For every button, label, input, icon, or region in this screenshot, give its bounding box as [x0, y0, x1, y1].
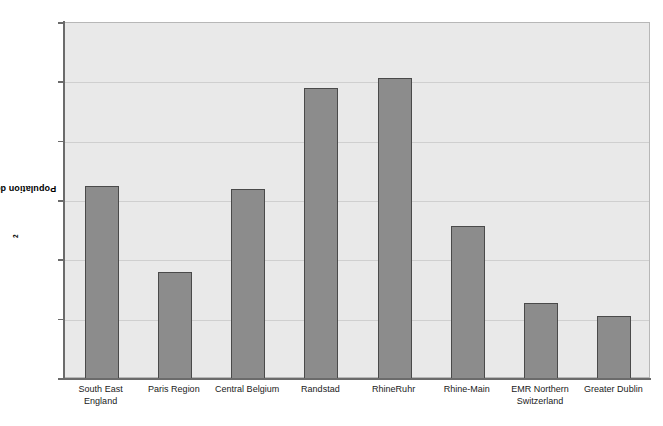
x-axis-line — [63, 378, 651, 380]
bar — [451, 226, 485, 379]
y-tick-mark — [58, 200, 63, 202]
y-tick-mark — [58, 141, 63, 143]
y-axis-title: Population density/km2 — [0, 0, 26, 378]
bar — [304, 88, 338, 379]
bar — [85, 186, 119, 379]
bar-chart: Population density/km2 12001000800600400… — [0, 0, 663, 426]
x-tick-label: Central Belgium — [211, 384, 284, 396]
bar — [158, 272, 192, 379]
y-axis-line — [63, 21, 65, 379]
x-tick-label: Randstad — [284, 384, 357, 396]
gridline — [65, 142, 649, 143]
x-tick-label: Greater Dublin — [577, 384, 650, 396]
x-tick-label: RhineRuhr — [357, 384, 430, 396]
y-tick-mark — [58, 81, 63, 83]
plot-area — [64, 22, 650, 378]
bar — [231, 189, 265, 379]
y-axis-title-superscript: 2 — [12, 234, 19, 238]
bar — [597, 316, 631, 379]
x-tick-label: South East England — [64, 384, 137, 407]
bar — [378, 78, 412, 379]
x-tick-label: Paris Region — [137, 384, 210, 396]
y-tick-mark — [58, 378, 63, 380]
gridline — [65, 201, 649, 202]
gridline — [65, 320, 649, 321]
y-tick-mark — [58, 319, 63, 321]
x-tick-label: Rhine-Main — [430, 384, 503, 396]
gridline — [65, 260, 649, 261]
gridline — [65, 82, 649, 83]
x-tick-label: EMR Northern Switzerland — [504, 384, 577, 407]
y-tick-mark — [58, 22, 63, 24]
bar — [524, 303, 558, 379]
y-axis-title-text: Population density/km — [0, 184, 56, 194]
y-tick-mark — [58, 259, 63, 261]
